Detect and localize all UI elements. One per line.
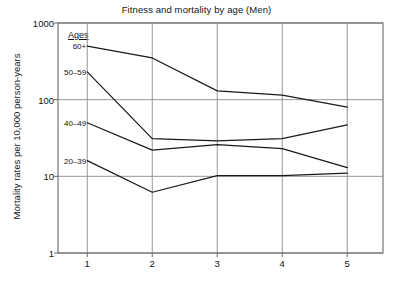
plot-area bbox=[0, 0, 393, 289]
chart-figure: Fitness and mortality by age (Men) Morta… bbox=[0, 0, 393, 289]
plot-border bbox=[58, 23, 383, 253]
plot-frame bbox=[58, 23, 383, 253]
gridlines bbox=[58, 23, 383, 253]
